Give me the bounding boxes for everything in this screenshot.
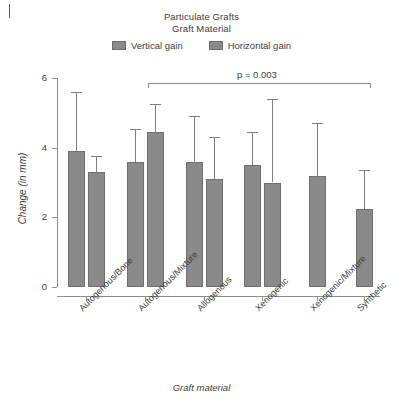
error-bar-stem bbox=[252, 132, 253, 165]
error-bar-stem bbox=[272, 99, 273, 183]
error-bar-cap bbox=[71, 92, 82, 93]
error-bar-cap bbox=[189, 116, 200, 117]
error-bar-cap bbox=[247, 132, 258, 133]
y-tick-label: 0 bbox=[7, 281, 47, 292]
bar bbox=[244, 165, 261, 287]
error-bar-cap bbox=[312, 123, 323, 124]
bar bbox=[356, 209, 373, 287]
bar bbox=[147, 132, 164, 287]
y-tick-label: 6 bbox=[7, 72, 47, 83]
error-bar-stem bbox=[194, 116, 195, 161]
error-bar-stem bbox=[76, 92, 77, 151]
bar bbox=[309, 176, 326, 287]
bar bbox=[206, 179, 223, 287]
bar bbox=[264, 183, 281, 288]
significance-bracket-tick-right bbox=[370, 83, 371, 88]
error-bar-cap bbox=[359, 170, 370, 171]
significance-bracket-line bbox=[148, 83, 370, 84]
y-axis-line bbox=[57, 78, 58, 287]
error-bar-cap bbox=[267, 99, 278, 100]
error-bar-cap bbox=[150, 104, 161, 105]
error-bar-cap bbox=[209, 137, 220, 138]
significance-p-value-label: p = 0.003 bbox=[237, 69, 277, 80]
error-bar-cap bbox=[91, 156, 102, 157]
bar bbox=[127, 162, 144, 287]
y-tick-mark bbox=[52, 287, 57, 288]
y-axis-title: Change (in mm) bbox=[17, 129, 28, 249]
error-bar-stem bbox=[135, 129, 136, 162]
y-tick-mark bbox=[52, 148, 57, 149]
y-tick-mark bbox=[52, 217, 57, 218]
bar bbox=[88, 172, 105, 287]
significance-bracket-tick-left bbox=[148, 83, 149, 88]
plot-area: 0246 p = 0.003 Autogenous/BoneAutogenous… bbox=[0, 0, 403, 406]
bar bbox=[68, 151, 85, 287]
y-tick-mark bbox=[52, 78, 57, 79]
error-bar-stem bbox=[317, 123, 318, 175]
x-axis-title: Graft material bbox=[0, 382, 403, 393]
error-bar-cap bbox=[130, 129, 141, 130]
error-bar-stem bbox=[364, 170, 365, 208]
error-bar-stem bbox=[96, 156, 97, 172]
error-bar-stem bbox=[155, 104, 156, 132]
error-bar-stem bbox=[214, 137, 215, 179]
bar bbox=[186, 162, 203, 287]
